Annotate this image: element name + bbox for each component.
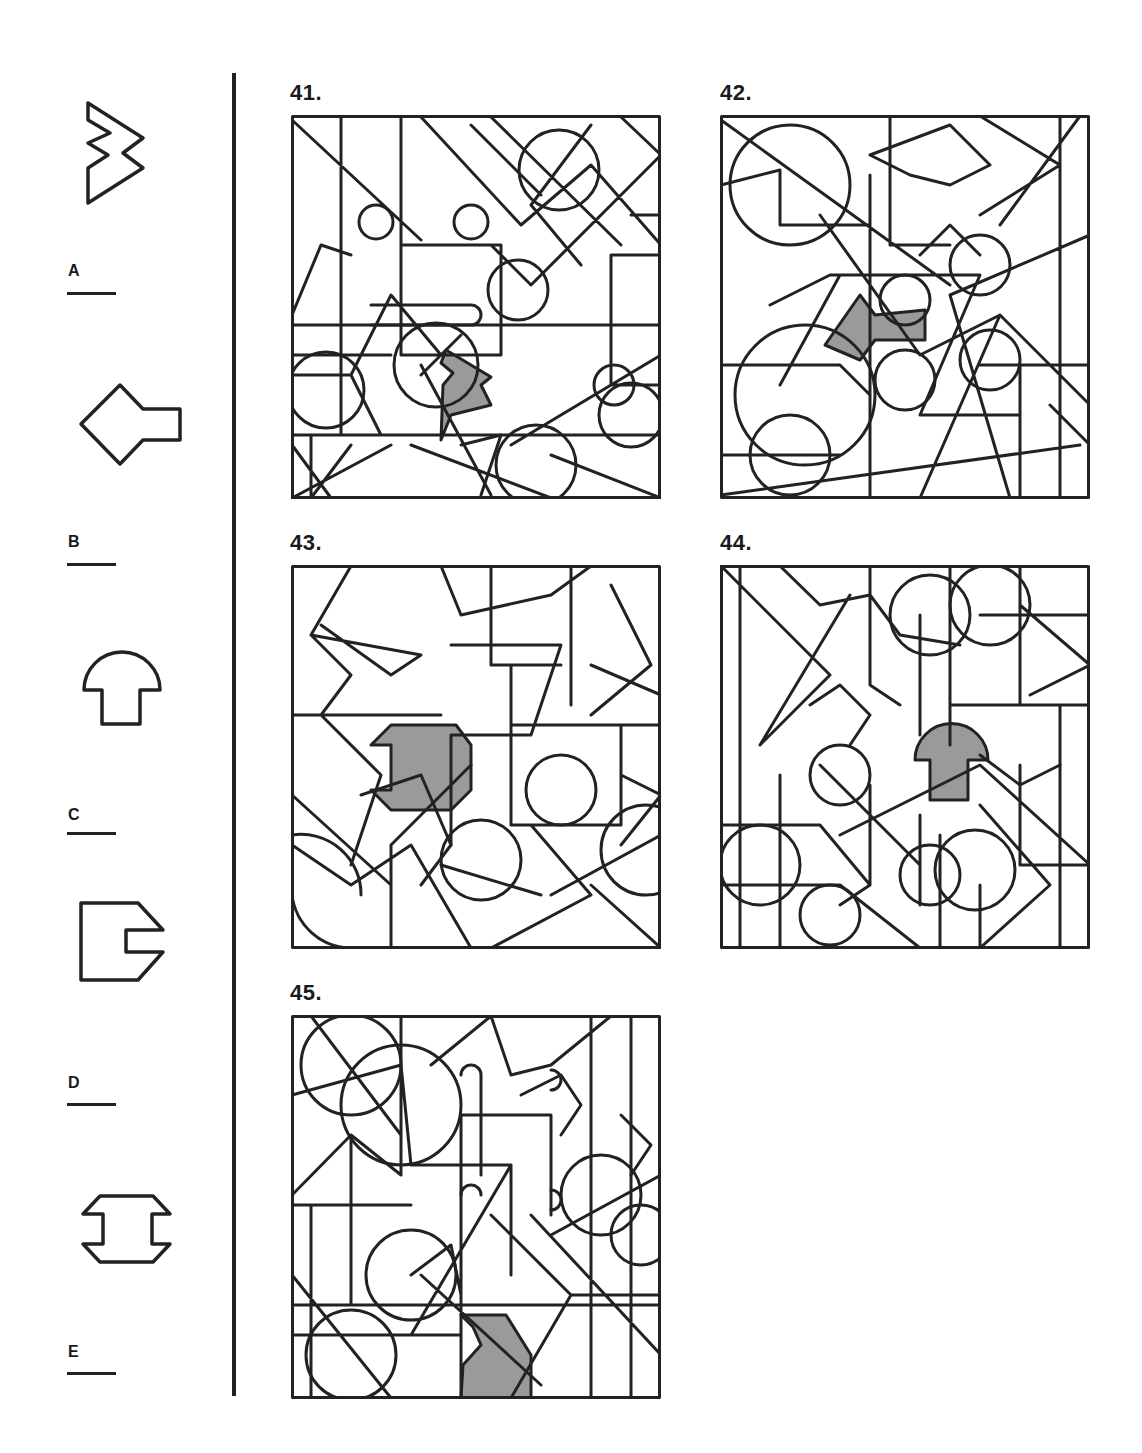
- answer-blank-c[interactable]: [67, 832, 116, 835]
- column-divider: [232, 73, 236, 1396]
- question-number-45: 45.: [290, 980, 322, 1006]
- question-number-44: 44.: [720, 530, 752, 556]
- mushroom-icon: [78, 650, 168, 740]
- diamond-with-tab-icon: [78, 382, 188, 472]
- puzzle-panel-44[interactable]: [720, 565, 1090, 949]
- answer-blank-a[interactable]: [67, 292, 116, 295]
- option-letter-d: D: [68, 1074, 80, 1092]
- puzzle-panel-42[interactable]: [720, 115, 1090, 499]
- option-letter-e: E: [68, 1343, 79, 1361]
- i-beam-octagon-icon: [78, 1190, 178, 1270]
- answer-blank-e[interactable]: [67, 1372, 116, 1375]
- option-letter-a: A: [68, 262, 80, 280]
- hidden-figure-puzzle: [291, 565, 661, 949]
- puzzle-panel-41[interactable]: [291, 115, 661, 499]
- puzzle-panel-45[interactable]: [291, 1015, 661, 1399]
- hidden-figure-puzzle: [720, 115, 1090, 499]
- option-letter-c: C: [68, 806, 80, 824]
- answer-blank-b[interactable]: [67, 563, 116, 566]
- question-number-43: 43.: [290, 530, 322, 556]
- puzzle-panel-43[interactable]: [291, 565, 661, 949]
- notched-pentagon-icon: [78, 900, 178, 1000]
- hidden-figure-puzzle: [291, 115, 661, 499]
- question-number-41: 41.: [290, 80, 322, 106]
- answer-blank-d[interactable]: [67, 1103, 116, 1106]
- double-zigzag-chevron-icon: [78, 100, 148, 210]
- hidden-figure-puzzle: [291, 1015, 661, 1399]
- question-number-42: 42.: [720, 80, 752, 106]
- option-letter-b: B: [68, 533, 80, 551]
- hidden-figure-puzzle: [720, 565, 1090, 949]
